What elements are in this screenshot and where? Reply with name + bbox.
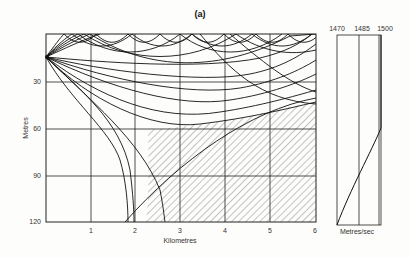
svg-text:5: 5	[268, 227, 272, 234]
svg-text:1500: 1500	[377, 25, 393, 32]
velocity-axis-label: Metres/sec	[340, 228, 375, 235]
svg-text:90: 90	[33, 172, 41, 179]
x-tick-labels: 1 2 3 4 5 6	[89, 227, 317, 234]
svg-text:1: 1	[89, 227, 93, 234]
y-tick-labels: 30 60 90 120	[29, 78, 41, 225]
sound-source-marker	[45, 55, 49, 59]
svg-text:30: 30	[33, 78, 41, 85]
x-axis-label: Kilometres	[163, 237, 197, 244]
svg-text:60: 60	[33, 125, 41, 132]
svg-text:120: 120	[29, 218, 41, 225]
velocity-profile-panel	[337, 35, 381, 225]
svg-text:2: 2	[133, 227, 137, 234]
svg-text:1470: 1470	[329, 25, 345, 32]
svg-text:6: 6	[313, 227, 317, 234]
svg-text:4: 4	[223, 227, 227, 234]
svg-text:1485: 1485	[354, 25, 370, 32]
shadow-zone	[146, 103, 316, 222]
svg-text:3: 3	[178, 227, 182, 234]
ray-diagram-figure: (a)	[0, 0, 409, 258]
figure-label: (a)	[195, 9, 206, 19]
velocity-tick-labels: 1470 1485 1500	[329, 25, 393, 32]
y-axis-label: Metres	[22, 117, 29, 139]
